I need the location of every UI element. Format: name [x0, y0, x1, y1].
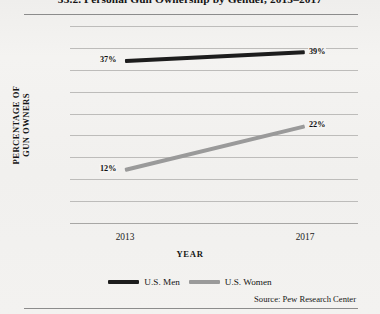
bottom-divider [24, 308, 358, 309]
source-note: Source: Pew Research Center [254, 294, 356, 304]
gridline-10 [70, 179, 358, 180]
legend-item-us-women[interactable]: U.S. Women [189, 277, 272, 287]
chart-legend: U.S. Men U.S. Women [0, 277, 380, 287]
x-tick-2017: 2017 [275, 232, 335, 242]
plot-area: 37% 39% 12% 22% [70, 26, 358, 223]
legend-swatch-us-women [189, 280, 220, 284]
y-axis-title: PERCENTAGE OF GUN OWNERS [13, 62, 29, 188]
data-label-men-2013: 37% [99, 55, 117, 64]
y-axis-title-line1: PERCENTAGE OF [11, 86, 21, 165]
data-label-women-2017: 22% [308, 120, 326, 129]
x-tick-2013: 2013 [95, 232, 155, 242]
gridline-15 [70, 157, 358, 158]
series-line-us-men [125, 50, 305, 63]
figure-title: 33.2. Personal Gun Ownership by Gender, … [0, 0, 380, 5]
gridline-45 [70, 26, 358, 27]
gridline-5 [70, 201, 358, 202]
legend-label-us-men: U.S. Men [144, 277, 179, 287]
top-divider [24, 14, 358, 15]
gridline-20 [70, 135, 358, 136]
legend-label-us-women: U.S. Women [225, 277, 272, 287]
data-label-men-2017: 39% [308, 47, 326, 56]
legend-swatch-us-men [108, 280, 139, 284]
figure-page: 33.2. Personal Gun Ownership by Gender, … [0, 0, 380, 314]
series-line-us-women [124, 125, 305, 173]
gridline-25 [70, 114, 358, 115]
x-axis-baseline [70, 223, 358, 224]
data-label-women-2013: 12% [99, 164, 117, 173]
legend-item-us-men[interactable]: U.S. Men [108, 277, 179, 287]
x-axis-title: YEAR [0, 249, 380, 259]
gridline-30 [70, 92, 358, 93]
y-axis-title-line2: GUN OWNERS [21, 93, 31, 157]
gridline-35 [70, 70, 358, 71]
